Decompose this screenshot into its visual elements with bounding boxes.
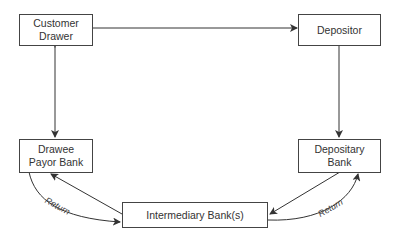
node-label: Intermediary Bank(s) [146, 209, 243, 222]
node-depositor: Depositor [298, 14, 381, 46]
node-customer-drawer: Customer Drawer [19, 14, 93, 46]
node-label-line2: Drawer [39, 30, 73, 43]
node-label-line1: Depositary [314, 143, 364, 156]
node-intermediary-banks: Intermediary Bank(s) [122, 202, 268, 228]
node-drawee-payor-bank: Drawee Payor Bank [19, 139, 93, 173]
node-label-line1: Drawee [38, 143, 74, 156]
node-label-line1: Customer [33, 17, 79, 30]
node-label: Depositor [317, 24, 362, 37]
node-depositary-bank: Depositary Bank [298, 139, 381, 173]
edge-return-left [29, 172, 120, 222]
node-label-line2: Payor Bank [29, 156, 83, 169]
node-label-line2: Bank [328, 156, 352, 169]
edge-return-right [268, 174, 358, 220]
